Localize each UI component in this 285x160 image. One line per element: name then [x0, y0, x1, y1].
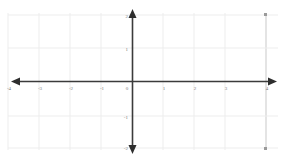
x-tick-label-minus2: -2: [69, 86, 73, 91]
y-tick-label-1: 1: [122, 47, 128, 52]
x-axis-right-arrowhead: [268, 78, 277, 86]
x-tick-label-3: 3: [225, 86, 228, 91]
x-axis-left-arrowhead: [11, 78, 20, 86]
x-tick-label-1: 1: [163, 86, 166, 91]
y-axis-top-arrowhead: [129, 9, 137, 18]
y-tick-label-minus1: -1: [122, 115, 128, 120]
y-axis-bottom-arrowhead: [129, 145, 137, 154]
x-tick-label-minus3: -3: [38, 86, 42, 91]
x-tick-label-zero: 0: [126, 86, 129, 91]
x-tick-label-2: 2: [194, 86, 197, 91]
x-tick-label-minus4: -4: [7, 86, 11, 91]
tick-mark-top-right: [264, 13, 267, 16]
tick-mark-bottom-right: [264, 147, 267, 150]
axes: [11, 9, 277, 154]
coordinate-plane-graph: -4 -3 -2 -1 0 1 2 3 4 2 1 -1 -2: [0, 0, 285, 160]
y-tick-label-minus2: -2: [122, 146, 128, 151]
y-tick-label-2: 2: [122, 14, 128, 19]
x-tick-label-minus1: -1: [100, 86, 104, 91]
x-tick-label-4: 4: [266, 86, 269, 91]
graph-canvas: [0, 0, 285, 160]
